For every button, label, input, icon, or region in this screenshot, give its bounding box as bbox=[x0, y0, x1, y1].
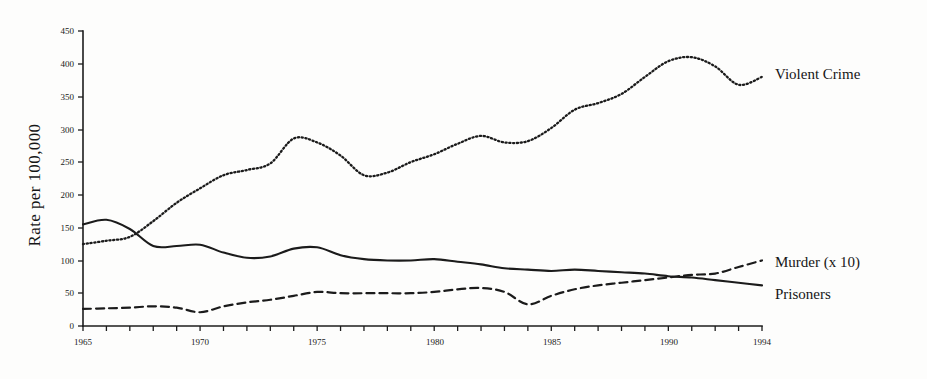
y-axis-title: Rate per 100,000 bbox=[25, 123, 44, 246]
y-tick-label-450: 450 bbox=[61, 26, 75, 36]
series-label-prisoners: Prisoners bbox=[775, 286, 831, 302]
series-line-murder bbox=[83, 220, 762, 286]
x-tick-label-1965: 1965 bbox=[74, 337, 93, 347]
y-tick-label-150: 150 bbox=[61, 223, 75, 233]
series-label-murder: Murder (x 10) bbox=[775, 254, 860, 271]
x-tick-label-1980: 1980 bbox=[426, 337, 445, 347]
series-line-prisoners bbox=[83, 260, 762, 312]
x-tick-label-1985: 1985 bbox=[543, 337, 562, 347]
x-axis-labels: 1965 1970 1975 1980 1985 1990 1994 bbox=[74, 337, 772, 347]
y-tick-label-200: 200 bbox=[61, 190, 75, 200]
y-tick-label-100: 100 bbox=[61, 256, 75, 266]
y-tick-label-50: 50 bbox=[65, 288, 75, 298]
x-tick-label-1994: 1994 bbox=[753, 337, 772, 347]
x-tick-label-1990: 1990 bbox=[660, 337, 679, 347]
series-line-violent-crime bbox=[83, 57, 762, 244]
line-chart: Rate per 100,000 0 50 100 150 200 250 30… bbox=[0, 0, 927, 379]
y-tick-label-300: 300 bbox=[61, 125, 75, 135]
chart-page: Rate per 100,000 0 50 100 150 200 250 30… bbox=[0, 0, 927, 379]
y-tick-label-0: 0 bbox=[70, 321, 75, 331]
y-tick-label-400: 400 bbox=[61, 59, 75, 69]
y-tick-label-250: 250 bbox=[61, 157, 75, 167]
x-tick-label-1970: 1970 bbox=[191, 337, 210, 347]
series-label-violent-crime: Violent Crime bbox=[775, 66, 861, 82]
x-tick-label-1975: 1975 bbox=[308, 337, 327, 347]
y-axis-ticks: 0 50 100 150 200 250 300 350 400 450 bbox=[61, 26, 84, 331]
y-tick-label-350: 350 bbox=[61, 92, 75, 102]
